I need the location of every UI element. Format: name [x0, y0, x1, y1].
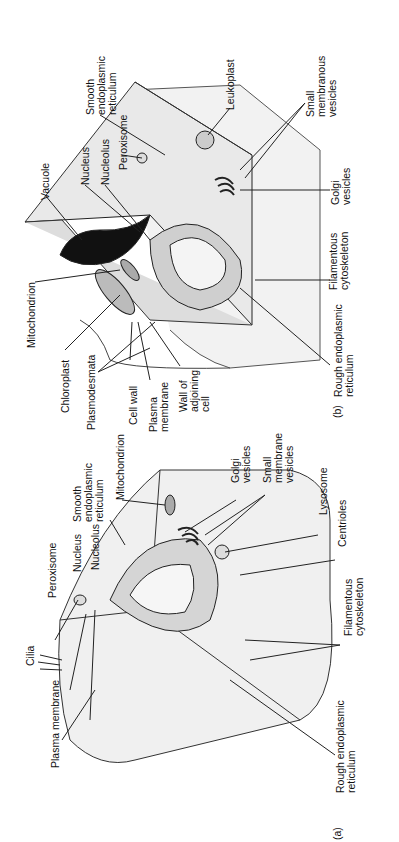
label-smooth-er-a: Smooth endoplasmic reticulum [72, 463, 105, 522]
label-filamentous-cytoskeleton-a: Filamentous cytoskeleton [343, 578, 365, 636]
label-smooth-er-b: Smooth endoplasmic reticulum [85, 56, 118, 115]
label-small-membranous-vesicles-b: Small membranous vesicles [305, 56, 338, 117]
label-cell-wall-b: Cell wall [128, 386, 139, 425]
plant-cell-drawing [25, 82, 330, 380]
label-leukoplast-b: Leukoplast [225, 59, 236, 110]
label-lysosome-a: Lysosome [318, 468, 329, 515]
label-plasma-membrane-b: Plasma membrane [148, 382, 170, 432]
label-golgi-vesicles-a: Golgi vesicles [230, 446, 252, 483]
cell-diagram-figure: Mitochondrion Vacuole Nucleus Nucleolus … [0, 0, 399, 842]
label-wall-adjoining-cell-b: Wall of adjoining cell [178, 370, 211, 412]
label-peroxisome-b: Peroxisome [118, 115, 129, 170]
label-small-membrane-vesicles-a: Small membrane vesicles [262, 433, 295, 483]
label-nucleus-b: Nucleus [80, 147, 91, 185]
panel-caption-b: (b) [332, 405, 343, 418]
label-peroxisome-a: Peroxisome [47, 543, 58, 598]
label-nucleus-a: Nucleus [72, 534, 83, 572]
label-vacuole-b: Vacuole [40, 163, 51, 200]
label-nucleolus-a: Nucleolus [90, 524, 101, 570]
label-cilia-a: Cilia [25, 646, 36, 666]
panel-caption-a: (a) [332, 827, 343, 840]
label-mitochondrion-a: Mitochondrion [115, 434, 126, 500]
label-centrioles-a: Centrioles [337, 500, 348, 547]
label-mitochondrion-b: Mitochondrion [26, 282, 37, 348]
label-rough-er-b: Rough endoplasmic reticulum [333, 304, 355, 397]
label-rough-er-a: Rough endoplasmic reticulum [335, 700, 357, 793]
label-plasmodesmata-b: Plasmodesmata [86, 355, 97, 430]
label-plasma-membrane-a: Plasma membrane [50, 680, 61, 768]
label-chloroplast-b: Chloroplast [60, 360, 71, 413]
label-filamentous-cytoskeleton-b: Filamentous cytoskeleton [328, 232, 350, 290]
label-nucleolus-b: Nucleolus [100, 139, 111, 185]
label-golgi-vesicles-b: Golgi vesicles [330, 168, 352, 205]
